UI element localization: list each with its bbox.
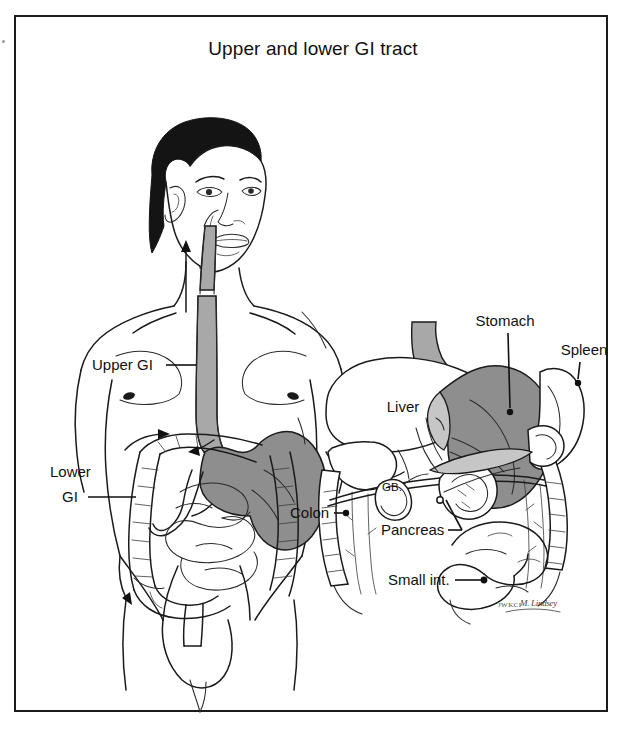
artist-signature: JWKCI M. Lindsey — [498, 598, 560, 612]
haustra-asc-2 — [138, 486, 155, 488]
haustra-asc-6 — [133, 558, 151, 560]
chin-crease — [217, 252, 239, 256]
leg-left-outline — [123, 600, 126, 690]
nipple-right — [286, 391, 300, 401]
mesenteric-line-left-2 — [368, 494, 376, 594]
label-liver: Liver — [387, 398, 420, 415]
label-colon-group: Colon — [290, 504, 349, 521]
haustra-asc-5 — [132, 540, 150, 542]
leg-right-outline — [294, 600, 297, 690]
label-lower-gi-line1: Lower — [50, 463, 91, 480]
label-lower-gi-group: Lower GI — [50, 463, 136, 505]
label-gallbladder: GB. — [382, 481, 402, 493]
haustra-asc-1 — [142, 468, 158, 470]
leader-dot-colon — [343, 510, 349, 516]
groin-crease-left — [163, 566, 178, 620]
face-outline — [190, 145, 266, 271]
leader-dot-spleen — [575, 380, 581, 386]
haustra-desc-6 — [276, 558, 295, 560]
mesenteric-line-left-1 — [352, 492, 361, 594]
label-colon: Colon — [290, 504, 329, 521]
small-intestine-vessel-1 — [488, 533, 512, 536]
cecum — [134, 578, 164, 589]
illustration-page: Upper and lower GI tract — [0, 0, 626, 738]
left-pupil — [206, 189, 212, 195]
small-intestine-right-6 — [450, 600, 470, 624]
rectum-right — [201, 604, 203, 646]
groin-outline — [162, 620, 232, 688]
haustra-asc-3 — [135, 504, 152, 506]
label-spleen: Spleen — [561, 341, 608, 358]
stomach-left-figure — [200, 432, 327, 550]
label-small-intestine-group: Small int. — [388, 571, 487, 588]
nostril — [234, 221, 245, 224]
pubic-detail — [190, 680, 200, 712]
lip-line — [216, 240, 247, 242]
colon-lower-left-stub — [334, 586, 362, 614]
haustra-asc-7 — [135, 576, 153, 577]
mouth — [214, 234, 249, 247]
small-intestine-loop-6 — [248, 552, 257, 580]
ampulla-of-vater — [437, 497, 443, 503]
small-intestine-right-4 — [466, 550, 506, 555]
pylorus-duodenum — [192, 504, 212, 516]
label-lower-gi-line2: GI — [62, 488, 78, 505]
colon-descending-left — [319, 470, 348, 586]
neck-left — [174, 262, 186, 306]
rectum-left — [184, 605, 186, 646]
leader-dot-small-intestine — [481, 577, 488, 584]
upper-gi-direction-arrow — [181, 240, 191, 312]
sigmoid-colon-inner — [155, 586, 218, 605]
small-intestine-right-3 — [514, 554, 528, 576]
esophagus-right-edge — [216, 296, 225, 452]
right-eyebrow — [240, 178, 261, 182]
esophagus-body-gray — [196, 296, 225, 452]
colon-splenic-flexure — [528, 426, 564, 467]
haustra-desc-7 — [274, 576, 292, 578]
ascending-colon-outer — [129, 452, 140, 590]
neck-right — [239, 268, 254, 306]
label-stomach: Stomach — [475, 312, 534, 329]
pubic-detail-2 — [200, 682, 206, 712]
mesenteric-branch-l3 — [346, 550, 354, 556]
small-intestine-loop-9 — [176, 504, 212, 509]
ear-inner-detail — [172, 194, 179, 212]
label-upper-gi-group: Upper GI — [92, 356, 196, 373]
pharynx-detail — [204, 210, 218, 226]
signature-name: M. Lindsey — [519, 598, 557, 608]
leader-spleen — [578, 362, 580, 379]
haustra-asc-4 — [133, 522, 151, 524]
signature-mark: JWKCI — [498, 601, 522, 609]
nipple-left — [122, 391, 136, 401]
label-upper-gi: Upper GI — [92, 356, 153, 373]
small-intestine-loop-7 — [196, 544, 232, 549]
ear-shape — [165, 186, 185, 222]
right-pupil — [248, 188, 254, 194]
anatomical-illustration: Upper GI Lower GI — [0, 0, 626, 738]
signature-underline — [506, 609, 560, 612]
label-small-intestine: Small int. — [388, 571, 450, 588]
leader-dot-stomach — [507, 409, 513, 415]
haustra-trans-2 — [176, 436, 180, 448]
torso-left-side — [105, 380, 120, 556]
shoulder-right — [254, 306, 341, 369]
mesenteric-branch-r2 — [534, 522, 542, 528]
duodenum-loop — [153, 470, 192, 531]
nose — [218, 193, 233, 226]
left-eyebrow — [196, 177, 224, 182]
ascending-colon-inner — [150, 454, 160, 586]
label-pancreas: Pancreas — [381, 521, 444, 538]
small-intestine-loop-8 — [205, 568, 242, 574]
jawline — [166, 182, 201, 267]
lower-gi-direction-arrow-1 — [125, 429, 170, 450]
left-panel-body-figure: Upper GI Lower GI — [50, 118, 348, 712]
haustra-trans-1 — [158, 442, 166, 452]
